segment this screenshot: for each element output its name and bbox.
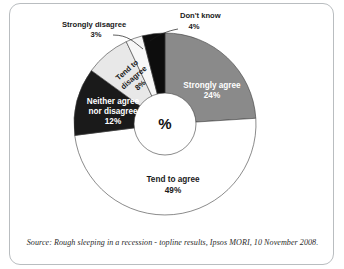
slice-value-neither: 12% xyxy=(105,117,122,126)
figure-panel: % Strongly agree 24% Tend to agree 49% N… xyxy=(9,3,334,265)
center-percent-label: % xyxy=(158,115,171,132)
callout-label-dont-know: Don't know xyxy=(180,11,221,20)
donut-chart: % Strongly agree 24% Tend to agree 49% N… xyxy=(10,4,335,236)
donut-chart-svg: % Strongly agree 24% Tend to agree 49% N… xyxy=(10,4,335,236)
source-note: Source: Rough sleeping in a recession - … xyxy=(10,238,335,247)
slice-label-neither-line1: Neither agree xyxy=(87,97,140,106)
slice-label-strongly-agree: Strongly agree xyxy=(183,81,241,90)
callout-label-strongly-disagree: Strongly disagree xyxy=(62,20,126,29)
slice-label-neither-line2: nor disagree xyxy=(88,107,138,116)
callout-value-strongly-disagree: 3% xyxy=(91,30,102,39)
callout-value-dont-know: 4% xyxy=(189,22,200,31)
slice-value-tend-to-agree: 49% xyxy=(165,186,182,195)
slice-label-tend-to-agree: Tend to agree xyxy=(146,175,200,184)
slice-value-strongly-agree: 24% xyxy=(204,91,221,100)
